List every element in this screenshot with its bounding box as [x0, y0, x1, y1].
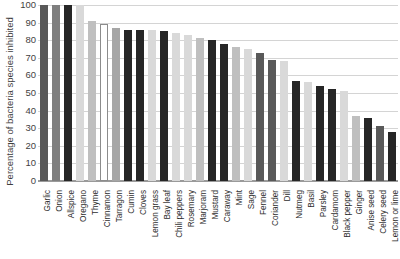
y-tick-label: 30 [10, 123, 36, 133]
bar-slot [326, 0, 338, 181]
y-tick-label: 80 [10, 35, 36, 45]
bar [352, 116, 360, 181]
bar-slot [338, 0, 350, 181]
x-label-slot: Nutmeg [290, 188, 302, 259]
bar-slot [218, 0, 230, 181]
bar [52, 5, 60, 181]
bar [316, 86, 324, 181]
x-label-slot: Black pepper [338, 188, 350, 259]
x-label-slot: Coriander [266, 188, 278, 259]
bar [268, 60, 276, 181]
bar-slot [182, 0, 194, 181]
bar [208, 40, 216, 181]
bar [244, 49, 252, 181]
bar [196, 38, 204, 181]
bar [40, 5, 48, 181]
bar-slot [314, 0, 326, 181]
bar-slot [242, 0, 254, 181]
bar [328, 89, 336, 181]
x-axis-tick-labels: GarlicOnionAllspiceOreganoThymeCinnamonT… [38, 188, 398, 259]
bar-slot [302, 0, 314, 181]
bar-slot [230, 0, 242, 181]
y-tick-label: 60 [10, 71, 36, 81]
x-label-slot: Sage [242, 188, 254, 259]
bar-slot [38, 0, 50, 181]
x-label-slot: Tarragon [110, 188, 122, 259]
x-label-slot: Celery seed [374, 188, 386, 259]
bar [256, 53, 264, 181]
bar [388, 132, 396, 181]
x-label-slot: Dill [278, 188, 290, 259]
bar [376, 126, 384, 181]
bar [124, 30, 132, 181]
bar [232, 47, 240, 181]
y-axis-tick-labels: 1009080706050403020100 [10, 0, 36, 186]
x-label-slot: Cloves [134, 188, 146, 259]
x-label-slot: Onion [50, 188, 62, 259]
gridline [38, 181, 398, 182]
bar-slot [374, 0, 386, 181]
bar [100, 24, 108, 181]
y-tick-label: 20 [10, 141, 36, 151]
bar-slot [266, 0, 278, 181]
x-label-slot: Lemon or lime [386, 188, 398, 259]
x-label-slot: Fennel [254, 188, 266, 259]
bar-slot [122, 0, 134, 181]
bar [364, 118, 372, 181]
bar [184, 35, 192, 181]
bar-slot [290, 0, 302, 181]
bar [280, 61, 288, 181]
x-label-slot: Basil [302, 188, 314, 259]
bar [160, 31, 168, 181]
bar-slot [146, 0, 158, 181]
x-label-slot: Ginger [350, 188, 362, 259]
x-label-slot: Allspice [62, 188, 74, 259]
bar-slot [170, 0, 182, 181]
bar-slot [362, 0, 374, 181]
bar [172, 33, 180, 181]
bar-slot [350, 0, 362, 181]
bar [304, 82, 312, 181]
x-label-slot: Parsley [314, 188, 326, 259]
x-label-slot: Thyme [86, 188, 98, 259]
x-tick-label: Lemon or lime [392, 190, 400, 242]
bar-slot [386, 0, 398, 181]
bar-series [38, 0, 398, 181]
x-label-slot: Mint [230, 188, 242, 259]
bar [292, 81, 300, 181]
bar [136, 30, 144, 181]
bar [220, 44, 228, 181]
y-tick-label: 10 [10, 159, 36, 169]
x-label-slot: Cardamom [326, 188, 338, 259]
bar-slot [50, 0, 62, 181]
y-tick-label: 50 [10, 88, 36, 98]
x-label-slot: Oregano [74, 188, 86, 259]
bar-slot [206, 0, 218, 181]
x-label-slot: Caraway [218, 188, 230, 259]
bar [112, 28, 120, 181]
bar-slot [134, 0, 146, 181]
y-tick-label: 0 [10, 176, 36, 186]
y-tick-label: 70 [10, 53, 36, 63]
x-label-slot: Chili peppers [170, 188, 182, 259]
x-label-slot: Marjoram [194, 188, 206, 259]
bar-slot [62, 0, 74, 181]
x-label-slot: Anise seed [362, 188, 374, 259]
x-label-slot: Garlic [38, 188, 50, 259]
y-tick-label: 90 [10, 18, 36, 28]
x-label-slot: Rosemary [182, 188, 194, 259]
x-label-slot: Mustard [206, 188, 218, 259]
bar-slot [278, 0, 290, 181]
bar-slot [194, 0, 206, 181]
x-label-slot: Cinnamon [98, 188, 110, 259]
bar-slot [110, 0, 122, 181]
bar-slot [86, 0, 98, 181]
bar [148, 30, 156, 181]
bar-slot [254, 0, 266, 181]
bar-slot [74, 0, 86, 181]
bar-slot [158, 0, 170, 181]
bar-slot [98, 0, 110, 181]
bar [88, 21, 96, 181]
bar [76, 5, 84, 181]
